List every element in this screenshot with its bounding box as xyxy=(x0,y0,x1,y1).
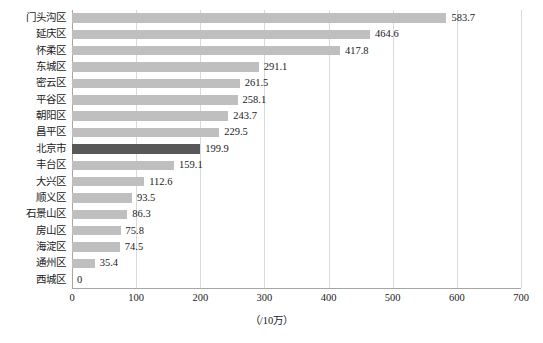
bar-value-label: 0 xyxy=(77,272,82,288)
category-label: 东城区 xyxy=(0,59,66,75)
bar xyxy=(72,79,240,88)
bar-row: 东城区291.1 xyxy=(0,59,543,75)
category-label: 石景山区 xyxy=(0,206,66,222)
bar-row: 平谷区258.1 xyxy=(0,92,543,108)
bar-row: 房山区75.8 xyxy=(0,223,543,239)
bar xyxy=(72,226,121,235)
bar xyxy=(72,30,370,39)
bar-value-label: 35.4 xyxy=(100,255,118,271)
bar-row: 昌平区229.5 xyxy=(0,124,543,140)
bar-value-label: 74.5 xyxy=(125,239,143,255)
bar-row: 怀柔区417.8 xyxy=(0,43,543,59)
x-tick-label-100: 100 xyxy=(116,291,156,305)
bar xyxy=(72,13,446,22)
bar xyxy=(72,46,340,55)
bar-row: 北京市199.9 xyxy=(0,141,543,157)
category-label: 西城区 xyxy=(0,272,66,288)
bar-row: 海淀区74.5 xyxy=(0,239,543,255)
bar-row: 石景山区86.3 xyxy=(0,206,543,222)
bar-value-label: 417.8 xyxy=(345,43,369,59)
x-tick-label-0: 0 xyxy=(52,291,92,305)
bar-row: 门头沟区583.7 xyxy=(0,10,543,26)
bar xyxy=(72,62,259,71)
category-label: 怀柔区 xyxy=(0,43,66,59)
x-tick-label-500: 500 xyxy=(373,291,413,305)
category-label: 房山区 xyxy=(0,223,66,239)
bar xyxy=(72,128,219,137)
bar-row: 西城区0 xyxy=(0,272,543,288)
bar-value-label: 243.7 xyxy=(233,108,257,124)
bar-row: 通州区35.4 xyxy=(0,255,543,271)
bar-row: 朝阳区243.7 xyxy=(0,108,543,124)
bar-value-label: 199.9 xyxy=(205,141,229,157)
bar-value-label: 86.3 xyxy=(132,206,150,222)
category-label: 北京市 xyxy=(0,141,66,157)
bar xyxy=(72,95,238,104)
bar-value-label: 93.5 xyxy=(137,190,155,206)
bar-row: 丰台区159.1 xyxy=(0,157,543,173)
bar-value-label: 112.6 xyxy=(149,174,172,190)
category-label: 平谷区 xyxy=(0,92,66,108)
bar xyxy=(72,193,132,202)
bar-value-label: 229.5 xyxy=(224,124,248,140)
category-label: 昌平区 xyxy=(0,124,66,140)
bar xyxy=(72,259,95,268)
bar-chart: 门头沟区583.7延庆区464.6怀柔区417.8东城区291.1密云区261.… xyxy=(0,0,543,343)
bar-value-label: 464.6 xyxy=(375,26,399,42)
x-tick-label-700: 700 xyxy=(501,291,541,305)
bar-row: 密云区261.5 xyxy=(0,75,543,91)
x-axis-line xyxy=(72,288,521,289)
bar-value-label: 75.8 xyxy=(126,223,144,239)
bar-row: 大兴区112.6 xyxy=(0,174,543,190)
x-axis-title: （/10万） xyxy=(0,312,543,327)
x-tick-label-300: 300 xyxy=(244,291,284,305)
category-label: 密云区 xyxy=(0,75,66,91)
bar xyxy=(72,144,200,153)
bar-value-label: 159.1 xyxy=(179,157,203,173)
category-label: 通州区 xyxy=(0,255,66,271)
bar-row: 延庆区464.6 xyxy=(0,26,543,42)
bar-value-label: 261.5 xyxy=(245,75,269,91)
bar-value-label: 291.1 xyxy=(264,59,288,75)
category-label: 延庆区 xyxy=(0,26,66,42)
category-label: 大兴区 xyxy=(0,174,66,190)
x-tick-label-600: 600 xyxy=(437,291,477,305)
bar xyxy=(72,210,127,219)
category-label: 门头沟区 xyxy=(0,10,66,26)
category-label: 顺义区 xyxy=(0,190,66,206)
bar xyxy=(72,111,228,120)
category-label: 海淀区 xyxy=(0,239,66,255)
category-label: 丰台区 xyxy=(0,157,66,173)
bar-value-label: 258.1 xyxy=(243,92,267,108)
bar xyxy=(72,161,174,170)
x-tick-label-200: 200 xyxy=(180,291,220,305)
bar-value-label: 583.7 xyxy=(451,10,475,26)
category-label: 朝阳区 xyxy=(0,108,66,124)
bar xyxy=(72,242,120,251)
x-tick-label-400: 400 xyxy=(309,291,349,305)
bar-row: 顺义区93.5 xyxy=(0,190,543,206)
bar xyxy=(72,177,144,186)
